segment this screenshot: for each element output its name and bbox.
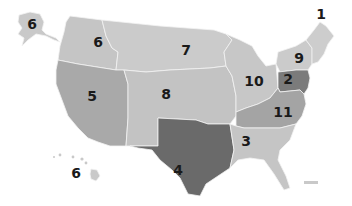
florida-keys xyxy=(304,181,318,184)
region-alaska[interactable] xyxy=(18,12,60,46)
region-label-2: 2 xyxy=(283,72,293,86)
region-label-5: 5 xyxy=(87,89,97,103)
region-label-4: 4 xyxy=(173,163,183,177)
region-label-11: 11 xyxy=(273,105,292,119)
region-label-3: 3 xyxy=(241,134,251,148)
region-label-7: 7 xyxy=(181,43,191,57)
region-label-1: 1 xyxy=(316,7,326,21)
hawaii-island-small xyxy=(80,157,83,160)
hawaii-island-small xyxy=(59,154,62,157)
hawaii-island-small xyxy=(85,162,88,165)
region-label-9: 9 xyxy=(294,51,304,65)
region-label-6-alaska: 6 xyxy=(27,17,37,31)
hawaii-island-small xyxy=(72,156,75,159)
region-label-6: 6 xyxy=(93,35,103,49)
region-hawaii[interactable] xyxy=(90,169,100,181)
region-3[interactable] xyxy=(230,124,296,190)
region-7[interactable] xyxy=(102,20,232,72)
region-label-10: 10 xyxy=(244,74,263,88)
region-label-6-hawaii: 6 xyxy=(71,166,81,180)
hawaii-island-small xyxy=(53,156,55,158)
region-label-8: 8 xyxy=(161,87,171,101)
